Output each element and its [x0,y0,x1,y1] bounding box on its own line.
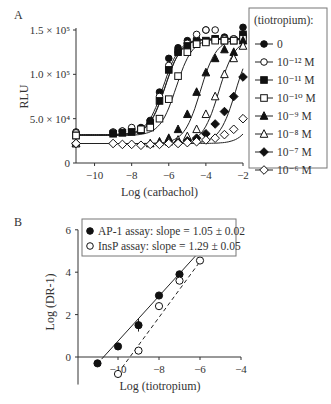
open-diamond-marker [118,140,127,149]
filled-circle-marker [114,343,121,350]
legend-label: AP-1 assay: slope = 1.05 ± 0.02 [98,225,245,238]
open-circle-marker [196,257,203,264]
filled-square-marker [128,129,135,136]
filled-diamond-marker [229,92,238,101]
open-square-marker [165,96,172,103]
y-tick-label: 5.0 × 10⁴ [30,113,70,125]
panel-b-legend: AP-1 assay: slope = 1.05 ± 0.02InsP assa… [82,219,245,256]
open-circle-marker [155,303,162,310]
filled-circle-marker [135,322,142,329]
open-circle-marker [212,27,219,34]
x-axis-label: Log (tiotropium) [120,379,201,393]
open-square-marker [212,37,219,44]
open-triangle-marker [193,125,201,133]
legend-title: (tiotropium): [254,14,313,27]
x-tick-label: −8 [153,363,165,375]
open-circle-marker [203,27,210,34]
panel-b-plot: 0246−10−8−6−4Log (tiotropium)Log (DR-1)A… [43,219,247,393]
open-circle-marker [193,31,200,38]
legend-label: 10⁻¹² M [277,56,315,68]
open-square-marker [221,37,228,44]
x-tick-label: −2 [237,169,249,181]
x-tick-label: −6 [194,363,206,375]
open-square-marker [203,39,210,46]
open-diamond-marker [137,141,146,150]
open-diamond-marker [229,125,238,134]
filled-square-marker [110,130,117,137]
open-circle-marker [135,347,142,354]
legend-label: 0 [277,38,283,50]
legend-label: InsP assay: slope = 1.29 ± 0.05 [98,240,241,253]
filled-circle-marker [155,292,162,299]
panel-a-plot: 05.0 × 10⁴1.0 × 10⁵1.5 × 10⁵−10−8−6−4−2L… [17,24,249,199]
x-tick-label: −4 [200,169,212,181]
open-square-marker [261,95,268,102]
y-tick-label: 2 [66,309,72,321]
filled-square-marker [165,67,172,74]
x-tick-label: −10 [86,169,104,181]
open-diamond-marker [127,140,136,149]
open-square-marker [138,126,145,133]
y-tick-label: 1.5 × 10⁵ [30,24,70,36]
open-circle-marker [114,370,121,377]
open-circle-marker [176,277,183,284]
filled-circle-marker [165,55,172,62]
open-circle-marker [261,59,268,66]
y-tick-label: 4 [66,266,72,278]
y-axis-label: Log (DR-1) [43,273,57,330]
open-square-marker [184,49,191,56]
filled-square-marker [156,98,163,105]
fit-curve [76,69,243,144]
open-square-marker [147,124,154,131]
open-circle-marker [87,243,94,250]
legend-label: 10⁻⁶ M [277,164,312,176]
open-diamond-marker [155,140,164,149]
open-square-marker [193,41,200,48]
legend-label: 10⁻¹⁰ M [277,92,316,104]
open-triangle-marker [221,70,229,78]
x-axis-label: Log (carbachol) [121,185,198,199]
open-square-marker [175,73,182,80]
filled-square-marker [184,43,191,50]
y-axis-label: RLU [17,84,31,108]
filled-circle-marker [261,41,268,48]
filled-circle-marker [94,360,101,367]
y-tick-label: 0 [66,351,72,363]
open-triangle-marker [202,110,210,118]
x-tick-label: −6 [163,169,175,181]
open-diamond-marker [220,130,229,139]
legend-label: 10⁻¹¹ M [277,74,315,86]
filled-triangle-marker [184,110,192,118]
open-diamond-marker [174,139,183,148]
y-tick-label: 0 [65,157,71,169]
filled-triangle-marker [193,88,201,96]
filled-diamond-marker [211,120,220,129]
open-square-marker [230,37,237,44]
legend-label: 10⁻⁸ M [277,128,312,140]
filled-square-marker [119,130,126,137]
open-diamond-marker [109,139,118,148]
legend-label: 10⁻⁹ M [277,110,312,122]
legend-item: 10⁻⁶ M [255,164,312,176]
filled-circle-marker [87,228,94,235]
filled-square-marker [261,77,268,84]
panel-a-label: A [14,8,23,22]
x-tick-label: −8 [126,169,138,181]
open-square-marker [156,115,163,122]
y-tick-label: 6 [66,224,72,236]
y-tick-label: 1.0 × 10⁵ [30,68,70,80]
panel-a-legend: (tiotropium):010⁻¹² M10⁻¹¹ M10⁻¹⁰ M10⁻⁹ … [249,8,327,176]
filled-diamond-marker [239,73,248,82]
filled-triangle-marker [174,125,182,133]
legend-item: 10⁻⁷ M [255,146,312,158]
filled-square-marker [175,49,182,56]
panel-b-label: B [14,215,22,229]
open-diamond-marker [146,140,155,149]
x-tick-label: −4 [235,363,247,375]
open-diamond-marker [239,114,248,123]
open-square-marker [73,132,80,139]
filled-triangle-marker [202,68,210,76]
open-diamond-marker [211,134,220,143]
legend-box [249,8,327,168]
figure: A 05.0 × 10⁴1.0 × 10⁵1.5 × 10⁵−10−8−6−4−… [0,0,331,404]
